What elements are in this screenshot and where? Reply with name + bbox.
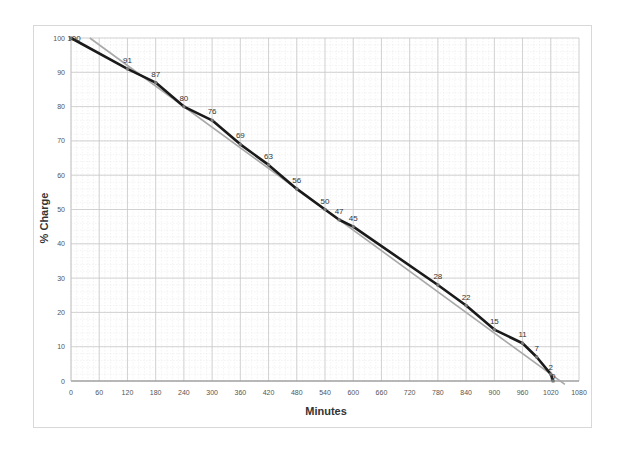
- y-tick-label: 50: [57, 206, 65, 213]
- x-tick-label: 360: [234, 389, 246, 396]
- data-label: 11: [518, 330, 527, 339]
- data-label: 80: [179, 94, 188, 103]
- data-label: 45: [349, 214, 358, 223]
- data-point-marker: [535, 355, 538, 358]
- x-tick-label: 1020: [543, 389, 559, 396]
- data-label: 28: [433, 272, 442, 281]
- x-tick-label: 720: [404, 389, 416, 396]
- data-label: 50: [321, 197, 330, 206]
- data-label: 0: [551, 372, 556, 381]
- x-tick-label: 960: [517, 389, 529, 396]
- data-point-marker: [338, 218, 341, 221]
- data-label: 22: [462, 293, 471, 302]
- data-point-marker: [465, 304, 468, 307]
- data-point-marker: [493, 328, 496, 331]
- x-tick-label: 120: [122, 389, 134, 396]
- y-tick-label: 30: [57, 275, 65, 282]
- data-label: 2: [549, 363, 554, 372]
- y-tick-label: 90: [57, 69, 65, 76]
- data-label: 76: [208, 107, 217, 116]
- data-point-marker: [436, 283, 439, 286]
- x-tick-label: 540: [319, 389, 331, 396]
- x-tick-label: 840: [460, 389, 472, 396]
- data-point-marker: [352, 225, 355, 228]
- data-label: 91: [123, 56, 132, 65]
- x-tick-label: 660: [376, 389, 388, 396]
- data-label: 47: [335, 207, 344, 216]
- data-label: 7: [534, 344, 539, 353]
- x-tick-label: 180: [150, 389, 162, 396]
- data-point-marker: [211, 119, 214, 122]
- x-tick-label: 480: [291, 389, 303, 396]
- chart-frame: 0102030405060708090100 06012018024030036…: [33, 25, 592, 428]
- data-label: 15: [490, 317, 499, 326]
- data-point-marker: [267, 163, 270, 166]
- x-axis-tick-labels: 0601201802403003604204805406006607207808…: [69, 389, 587, 396]
- x-tick-label: 1080: [571, 389, 587, 396]
- x-tick-label: 300: [206, 389, 218, 396]
- data-label: 87: [151, 70, 160, 79]
- data-point-marker: [182, 105, 185, 108]
- y-tick-label: 100: [53, 35, 65, 42]
- y-tick-label: 70: [57, 137, 65, 144]
- y-axis-title: % Charge: [38, 193, 50, 244]
- data-label: 56: [292, 176, 301, 185]
- x-tick-label: 900: [488, 389, 500, 396]
- data-point-marker: [126, 67, 129, 70]
- battery-discharge-chart: 0102030405060708090100 06012018024030036…: [34, 26, 593, 429]
- x-tick-label: 0: [69, 389, 73, 396]
- x-tick-label: 600: [347, 389, 359, 396]
- x-axis-title: Minutes: [305, 405, 347, 417]
- y-tick-label: 10: [57, 343, 65, 350]
- y-tick-label: 80: [57, 103, 65, 110]
- y-tick-label: 60: [57, 172, 65, 179]
- x-tick-label: 780: [432, 389, 444, 396]
- data-point-marker: [295, 187, 298, 190]
- x-tick-label: 60: [95, 389, 103, 396]
- y-axis-tick-labels: 0102030405060708090100: [53, 35, 65, 385]
- data-label: 69: [236, 131, 245, 140]
- data-point-marker: [154, 81, 157, 84]
- data-label: 100: [67, 34, 81, 43]
- data-point-marker: [324, 208, 327, 211]
- y-tick-label: 0: [61, 378, 65, 385]
- series-layer: [70, 37, 565, 385]
- x-tick-label: 240: [178, 389, 190, 396]
- y-tick-label: 40: [57, 240, 65, 247]
- data-point-marker: [521, 342, 524, 345]
- data-label: 63: [264, 152, 273, 161]
- y-tick-label: 20: [57, 309, 65, 316]
- x-tick-label: 420: [263, 389, 275, 396]
- data-point-marker: [239, 143, 242, 146]
